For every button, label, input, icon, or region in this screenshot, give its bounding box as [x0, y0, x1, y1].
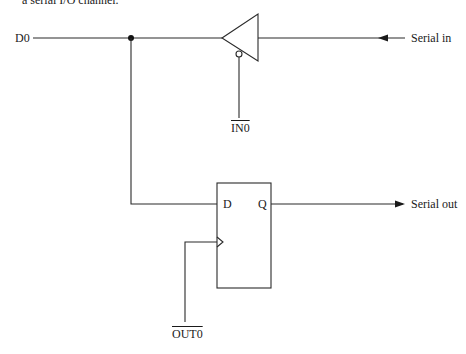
d0-label: D0: [15, 31, 30, 45]
d-branch-wire: [131, 38, 217, 204]
serial-in-label: Serial in: [411, 31, 451, 45]
flip-flop-q-pin-label: Q: [258, 197, 267, 211]
serial-in-arrow-icon: [378, 35, 388, 42]
serial-out-label: Serial out: [411, 197, 457, 211]
serial-io-circuit-diagram: [0, 0, 466, 354]
out0-label: OUT0: [172, 327, 203, 341]
serial-out-arrow-icon: [395, 201, 405, 208]
in0-label: IN0: [231, 121, 250, 135]
flip-flop-d-pin-label: D: [223, 197, 232, 211]
enable-bubble-icon: [236, 51, 242, 57]
out0-clock-wire: [185, 242, 217, 322]
